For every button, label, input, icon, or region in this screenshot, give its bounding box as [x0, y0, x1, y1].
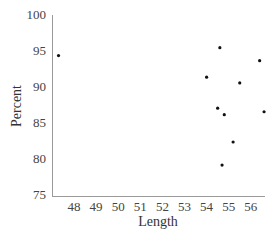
x-axis: 484950515253545556 Length [52, 197, 265, 230]
x-tick-label: 48 [68, 199, 81, 214]
x-tick-label: 49 [90, 199, 103, 214]
x-tick-label: 51 [134, 199, 147, 214]
x-tick-label: 56 [244, 199, 258, 214]
scatter-chart: 7580859095100 Percent 484950515253545556… [0, 0, 273, 241]
data-point [216, 107, 219, 110]
data-points [57, 46, 266, 167]
y-tick-label: 85 [33, 115, 46, 130]
y-tick-label: 80 [33, 151, 46, 166]
data-point [205, 76, 208, 79]
data-point [238, 81, 241, 84]
x-tick-label: 54 [200, 199, 214, 214]
data-point [232, 140, 235, 143]
y-tick-label: 75 [33, 187, 46, 202]
y-tick-label: 90 [33, 79, 46, 94]
x-tick-labels: 484950515253545556 [68, 199, 258, 214]
data-point [262, 110, 265, 113]
x-axis-title: Length [138, 214, 178, 229]
x-tick-label: 53 [178, 199, 191, 214]
y-axis-title: Percent [9, 85, 24, 127]
y-tick-label: 95 [33, 43, 46, 58]
x-tick-label: 50 [112, 199, 125, 214]
y-tick-labels: 7580859095100 [27, 7, 47, 202]
data-point [258, 59, 261, 62]
x-tick-label: 55 [222, 199, 235, 214]
x-tick-label: 52 [156, 199, 169, 214]
y-tick-label: 100 [27, 7, 47, 22]
data-point [57, 54, 60, 57]
data-point [223, 113, 226, 116]
data-point [218, 46, 221, 49]
data-point [220, 163, 223, 166]
y-axis: 7580859095100 Percent [9, 7, 52, 202]
